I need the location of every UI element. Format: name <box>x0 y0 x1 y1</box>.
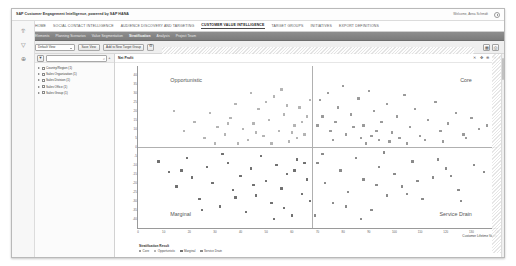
gear-icon[interactable]: ⚙ <box>147 44 154 51</box>
scatter-point[interactable] <box>396 115 398 117</box>
print-icon[interactable]: ⎙ <box>492 44 499 51</box>
scatter-point[interactable] <box>339 169 341 171</box>
scatter-point[interactable] <box>329 130 331 132</box>
scatter-point[interactable] <box>332 139 334 141</box>
scatter-point[interactable] <box>470 117 472 119</box>
scatter-point[interactable] <box>486 124 488 126</box>
scatter-point[interactable] <box>345 205 347 207</box>
scatter-point[interactable] <box>270 202 272 204</box>
scatter-point[interactable] <box>232 189 234 191</box>
scatter-point[interactable] <box>421 198 423 200</box>
list-item[interactable]: Sales Group (1) <box>38 90 114 96</box>
scatter-point[interactable] <box>406 193 408 195</box>
scatter-point[interactable] <box>209 112 211 114</box>
scatter-point[interactable] <box>332 202 334 204</box>
scatter-point[interactable] <box>424 139 426 141</box>
scatter-point[interactable] <box>342 85 344 87</box>
scatter-point[interactable] <box>345 133 347 135</box>
scatter-point[interactable] <box>445 167 447 169</box>
view-select[interactable]: Default View <box>35 44 75 51</box>
scatter-point[interactable] <box>355 157 357 159</box>
scatter-point[interactable] <box>360 218 362 220</box>
scatter-point[interactable] <box>175 185 177 187</box>
scatter-point[interactable] <box>316 124 318 126</box>
scatter-point[interactable] <box>437 158 439 160</box>
checkbox[interactable] <box>42 67 45 70</box>
scatter-point[interactable] <box>483 171 485 173</box>
scatter-point[interactable] <box>327 92 329 94</box>
scatter-point[interactable] <box>432 176 434 178</box>
scatter-point[interactable] <box>275 164 277 166</box>
add-circle-icon[interactable]: ⊕ <box>19 55 27 63</box>
scatter-point[interactable] <box>447 122 449 124</box>
scatter-point[interactable] <box>168 171 170 173</box>
chevron-right-icon[interactable] <box>38 86 40 88</box>
scatter-point[interactable] <box>260 155 262 157</box>
scatter-point[interactable] <box>293 169 295 171</box>
vertical-scrollbar[interactable] <box>501 54 504 257</box>
checkbox[interactable] <box>42 79 45 82</box>
scatter-point[interactable] <box>229 117 231 119</box>
legend-item-service-drain[interactable]: Service Drain <box>200 249 222 253</box>
scatter-point[interactable] <box>442 140 444 142</box>
scatter-point[interactable] <box>411 160 413 162</box>
nav-item-audience-discovery-and-targeting[interactable]: AUDIENCE DISCOVERY AND TARGETING <box>121 24 195 29</box>
legend-item-opportunistic[interactable]: Opportunistic <box>154 249 175 253</box>
scatter-point[interactable] <box>373 110 375 112</box>
nav-item-export-definitions[interactable]: EXPORT DEFINITIONS <box>339 24 379 29</box>
scatter-point[interactable] <box>203 137 205 139</box>
scatter-point[interactable] <box>296 158 298 160</box>
scatter-point[interactable] <box>214 142 216 144</box>
scatter-point[interactable] <box>324 182 326 184</box>
add-to-target-group-button[interactable]: Add to New Target Group <box>103 44 145 51</box>
scatter-point[interactable] <box>383 151 385 153</box>
checkbox[interactable] <box>42 91 45 94</box>
scatter-point[interactable] <box>309 99 311 101</box>
scatter-point[interactable] <box>439 130 441 132</box>
checkbox[interactable] <box>42 85 45 88</box>
scatter-point[interactable] <box>380 121 382 123</box>
filter-funnel-icon[interactable]: ▽ <box>19 41 27 49</box>
scatter-point[interactable] <box>368 90 370 92</box>
chevron-right-icon[interactable] <box>38 67 40 69</box>
scatter-point[interactable] <box>224 133 226 135</box>
scatter-point[interactable] <box>288 140 290 142</box>
subnav-item-planning-scenarios[interactable]: Planning Scenarios <box>56 34 86 38</box>
scatter-point[interactable] <box>370 209 372 211</box>
zoom-out-icon[interactable]: ⊖ <box>493 56 496 60</box>
nav-item-home[interactable]: HOME <box>35 24 46 29</box>
scatter-point[interactable] <box>391 131 393 133</box>
scatter-point[interactable] <box>334 121 336 123</box>
scatter-point[interactable] <box>262 135 264 137</box>
scatter-point[interactable] <box>234 103 236 105</box>
chevron-right-icon[interactable] <box>38 79 40 81</box>
scatter-point[interactable] <box>201 209 203 211</box>
scatter-point[interactable] <box>219 205 221 207</box>
save-view-button[interactable]: Save View <box>78 44 100 51</box>
pan-icon[interactable]: ✥ <box>480 56 483 60</box>
nav-item-social-contact-intelligence[interactable]: SOCIAL CONTACT INTELLIGENCE <box>53 24 114 29</box>
scatter-point[interactable] <box>291 131 293 133</box>
scatter-point[interactable] <box>270 142 272 144</box>
scatter-point[interactable] <box>252 184 254 186</box>
scatter-point[interactable] <box>465 137 467 139</box>
subnav-item-value-segmentation[interactable]: Value Segmentation <box>92 34 123 38</box>
scatter-point[interactable] <box>370 135 372 137</box>
scatter-point[interactable] <box>237 142 239 144</box>
scatter-point[interactable] <box>473 164 475 166</box>
zoom-in-icon[interactable]: ⊕ <box>486 56 489 60</box>
reset-zoom-icon[interactable]: ✕ <box>473 56 476 60</box>
scatter-point[interactable] <box>350 113 352 115</box>
scatter-point[interactable] <box>401 185 403 187</box>
scatter-point[interactable] <box>278 130 280 132</box>
scatter-point[interactable] <box>375 184 377 186</box>
scatter-point[interactable] <box>347 191 349 193</box>
scatter-point[interactable] <box>378 166 380 168</box>
scatter-point[interactable] <box>286 173 288 175</box>
scatter-point[interactable] <box>245 211 247 213</box>
scatter-point[interactable] <box>286 104 288 106</box>
scatter-point[interactable] <box>362 124 364 126</box>
search-input[interactable]: ⌕ <box>46 55 108 62</box>
scatter-point[interactable] <box>321 153 323 155</box>
scrollbar-thumb[interactable] <box>502 58 504 80</box>
